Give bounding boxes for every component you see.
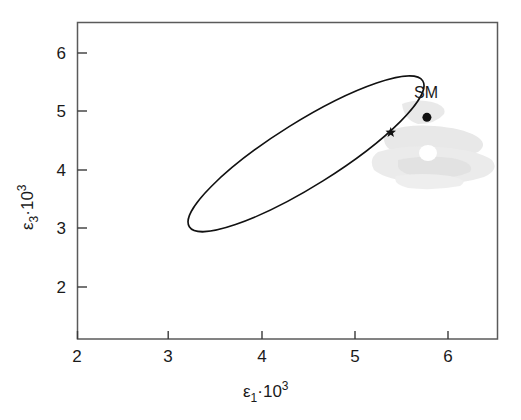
x-tick-label: 5 <box>350 347 359 366</box>
y-axis-title-superscript: 3 <box>15 184 29 191</box>
y-tick-label: 5 <box>57 102 66 121</box>
y-tick-label: 4 <box>57 161 66 180</box>
y-tick-label: 6 <box>57 44 66 63</box>
x-axis-title-superscript: 3 <box>282 379 289 393</box>
sm-annotation-label: SM <box>414 84 438 101</box>
figure-container: 2 3 4 5 6 6 5 4 3 2 ε1·103 ε3·103 <box>0 0 521 420</box>
x-tick-label: 2 <box>72 347 81 366</box>
y-axis-title-rest: ·10 <box>18 191 37 216</box>
x-tick-label: 6 <box>443 347 452 366</box>
y-tick-label: 3 <box>57 219 66 238</box>
x-axis-title-rest: ·10 <box>257 382 282 401</box>
x-tick-label: 4 <box>257 347 266 366</box>
x-tick-label: 3 <box>163 347 172 366</box>
chart-svg: 2 3 4 5 6 6 5 4 3 2 ε1·103 ε3·103 <box>0 0 521 420</box>
standard-model-dot <box>422 113 431 122</box>
y-tick-label: 2 <box>57 278 66 297</box>
